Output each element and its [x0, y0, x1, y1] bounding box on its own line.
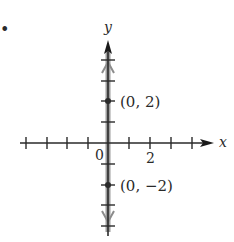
point-0-2 — [105, 98, 111, 104]
point-label-0-2: (0, 2) — [120, 93, 160, 111]
x-tick-label-2: 2 — [146, 150, 155, 166]
point-label-0-neg2: (0, −2) — [120, 177, 173, 195]
y-axis-label: y — [103, 19, 113, 35]
x-axis — [20, 137, 214, 149]
x-axis-label: x — [219, 134, 227, 150]
point-0-neg2 — [105, 182, 111, 188]
coordinate-graph: • — [0, 0, 234, 242]
problem-bullet: • — [0, 20, 9, 39]
origin-label: 0 — [95, 147, 104, 163]
